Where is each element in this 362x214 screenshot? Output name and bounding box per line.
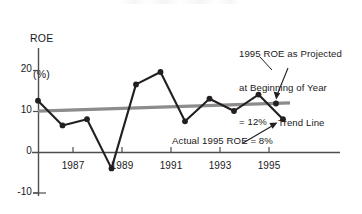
data-point-1995 — [280, 116, 286, 122]
data-point-1993 — [231, 108, 237, 114]
projected-annotation-arrow — [274, 68, 288, 100]
data-point-1994 — [256, 92, 262, 98]
data-point-1985 — [35, 98, 41, 104]
roe-line-chart: ROE (%) 20 10 0 -10 1987 1989 1991 1993 … — [0, 0, 362, 214]
chart-plot-area — [0, 0, 362, 214]
data-point-1987 — [84, 116, 90, 122]
projected-annotation-leader — [260, 57, 272, 70]
data-point-1992 — [207, 96, 213, 102]
data-point-1986 — [60, 123, 66, 129]
data-point-1988 — [109, 166, 115, 172]
trend-line-endpoint-marker — [273, 101, 279, 107]
y-axis-ticks — [33, 71, 46, 194]
data-point-1989 — [133, 82, 139, 88]
data-point-1991 — [182, 118, 188, 124]
data-point-1990 — [158, 69, 164, 75]
trend-line — [38, 103, 290, 111]
actual-roe-line — [38, 72, 283, 168]
actual-roe-markers — [35, 69, 286, 171]
actual-annotation-arrow — [243, 123, 278, 144]
